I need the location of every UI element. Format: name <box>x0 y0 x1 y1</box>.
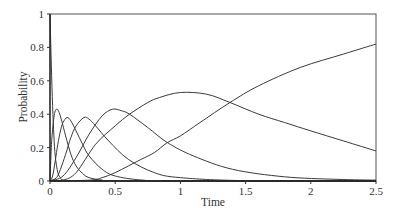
x-axis-title: Time <box>201 196 225 208</box>
curve-state-5 <box>50 92 376 181</box>
y-tick-label: 1 <box>39 8 45 20</box>
y-axis: 00.20.40.60.81 <box>30 8 50 187</box>
x-tick-label: 0 <box>47 185 53 197</box>
x-tick-label: 0.5 <box>108 185 122 197</box>
y-tick-label: 0.6 <box>30 75 44 87</box>
x-axis: 00.511.522.5 <box>47 181 383 197</box>
x-tick-label: 1 <box>178 185 184 197</box>
y-tick-label: 0 <box>39 175 45 187</box>
curve-absorbing-state <box>50 44 376 181</box>
y-tick-label: 0.8 <box>30 41 44 53</box>
x-tick-label: 2 <box>308 185 314 197</box>
curves-group <box>50 14 376 181</box>
y-axis-title: Probability <box>17 71 30 122</box>
curve-state-4 <box>50 109 376 181</box>
curve-state-3 <box>50 117 376 181</box>
y-tick-label: 0.2 <box>30 142 44 154</box>
x-tick-label: 1.5 <box>239 185 253 197</box>
plot-frame <box>50 14 376 181</box>
curve-state-2 <box>50 118 376 181</box>
probability-chart: 00.511.522.5 00.20.40.60.81 Time Probabi… <box>0 0 396 216</box>
curve-state-0 <box>50 14 376 181</box>
y-tick-label: 0.4 <box>30 108 44 120</box>
x-tick-label: 2.5 <box>369 185 383 197</box>
